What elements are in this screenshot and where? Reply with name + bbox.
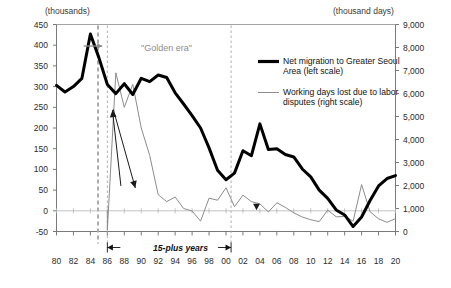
plot-area [0,0,451,288]
annotation-arrows [84,43,260,252]
legend-swatches [258,62,279,93]
axis-ticks [53,25,399,236]
chart-container: (thousands) (thousand days) Net migratio… [0,0,451,288]
